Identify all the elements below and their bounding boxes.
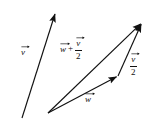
- vector-arrow-accent-icon: [131, 52, 140, 55]
- fraction-v-over-2-sum: v 2: [75, 36, 82, 61]
- vector-diagram-figure: v w + v 2: [0, 0, 155, 120]
- fraction-numerator-wrap: v: [130, 52, 137, 65]
- vector-arrow-accent-icon: [60, 42, 71, 45]
- vector-arrow-accent-icon: [85, 92, 96, 95]
- vector-w-symbol-sum: w: [60, 42, 66, 54]
- vector-v-symbol: v: [21, 45, 25, 57]
- vector-w-glyph: w: [85, 95, 91, 104]
- vector-v-symbol-half: v: [131, 52, 135, 64]
- fraction-numerator-glyph: v: [131, 55, 135, 64]
- label-vector-v: v: [21, 45, 25, 57]
- vector-arrow-accent-icon: [21, 45, 30, 48]
- label-vector-v-half: v 2: [130, 52, 137, 77]
- fraction-v-over-2: v 2: [130, 52, 137, 77]
- label-vector-w: w: [85, 92, 91, 104]
- vector-v-glyph: v: [21, 48, 25, 57]
- vector-w-symbol: w: [85, 92, 91, 104]
- vector-w-glyph-sum: w: [60, 45, 66, 54]
- label-vector-sum: w + v 2: [60, 36, 82, 61]
- fraction-numerator-wrap: v: [75, 36, 82, 49]
- vector-arrow-accent-icon: [76, 36, 85, 39]
- vector-v-symbol-sum: v: [76, 36, 80, 48]
- vector-v-line: [22, 14, 55, 118]
- fraction-denominator: 2: [75, 52, 82, 61]
- vector-w-line: [48, 77, 117, 113]
- fraction-numerator-glyph: v: [76, 39, 80, 48]
- fraction-denominator: 2: [130, 68, 137, 77]
